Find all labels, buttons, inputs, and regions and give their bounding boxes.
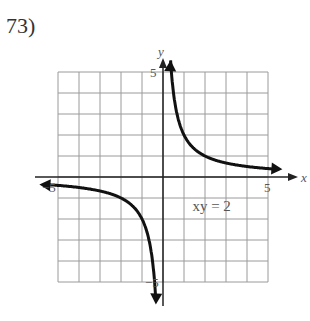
y-min-tick-label: −5 bbox=[145, 275, 159, 290]
y-axis-label: y bbox=[156, 44, 164, 59]
curve-arrow-icon bbox=[271, 162, 283, 175]
x-max-tick-label: 5 bbox=[264, 180, 271, 195]
hyperbola-graph: −555−5xyxy = 2 bbox=[0, 0, 310, 321]
y-max-tick-label: 5 bbox=[150, 65, 157, 80]
equation-label: xy = 2 bbox=[192, 198, 230, 214]
branch-quadrant-III bbox=[45, 185, 155, 301]
axes bbox=[35, 58, 298, 306]
x-axis-label: x bbox=[300, 170, 307, 185]
y-axis-arrow-icon bbox=[159, 58, 167, 68]
x-axis-arrow-icon bbox=[288, 173, 298, 181]
x-min-tick-label: −5 bbox=[42, 180, 56, 195]
curve-arrow-icon bbox=[150, 293, 162, 304]
curves bbox=[39, 60, 283, 305]
branch-quadrant-I bbox=[171, 60, 277, 169]
